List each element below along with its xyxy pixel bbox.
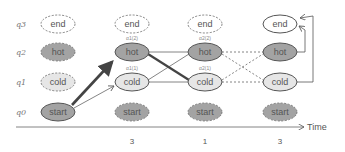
alpha-annotation-cold: α1(1) bbox=[126, 65, 138, 71]
column-0: end hot cold start bbox=[41, 15, 75, 121]
trellis-diagram: q3 q2 q1 q0 end hot cold start end α1(2) bbox=[0, 0, 345, 152]
observation-3: 3 bbox=[278, 137, 283, 146]
node-start: start bbox=[123, 107, 141, 117]
row-label-q3: q3 bbox=[16, 20, 26, 29]
node-end: end bbox=[124, 19, 139, 29]
edge-hot-end bbox=[297, 26, 305, 52]
node-cold: cold bbox=[50, 77, 67, 87]
column-1: end α1(2) hot α1(1) cold start bbox=[115, 15, 149, 121]
node-start: start bbox=[49, 107, 67, 117]
node-cold: cold bbox=[272, 77, 289, 87]
node-hot: hot bbox=[199, 47, 212, 57]
row-label-q1: q1 bbox=[16, 78, 26, 87]
alpha-annotation-hot: α2(2) bbox=[199, 35, 211, 41]
node-hot: hot bbox=[274, 47, 287, 57]
observation-1: 3 bbox=[130, 137, 135, 146]
node-end: end bbox=[197, 19, 212, 29]
edges-col1-col2 bbox=[148, 52, 189, 82]
node-cold: cold bbox=[197, 77, 214, 87]
node-start: start bbox=[196, 107, 214, 117]
column-2: end α2(2) hot α2(1) cold start bbox=[188, 15, 222, 121]
node-hot: hot bbox=[126, 47, 139, 57]
column-3: end hot cold start bbox=[263, 15, 297, 121]
time-axis-label: Time bbox=[307, 122, 327, 132]
node-end: end bbox=[272, 19, 287, 29]
node-start: start bbox=[271, 107, 289, 117]
node-hot: hot bbox=[52, 47, 65, 57]
alpha-annotation-cold: α2(1) bbox=[199, 65, 211, 71]
observation-2: 1 bbox=[203, 137, 208, 146]
node-cold: cold bbox=[124, 77, 141, 87]
node-end: end bbox=[50, 19, 65, 29]
row-label-q2: q2 bbox=[16, 48, 26, 57]
row-label-q0: q0 bbox=[16, 108, 26, 117]
edges-col2-col3 bbox=[222, 52, 263, 82]
alpha-annotation-hot: α1(2) bbox=[126, 35, 138, 41]
